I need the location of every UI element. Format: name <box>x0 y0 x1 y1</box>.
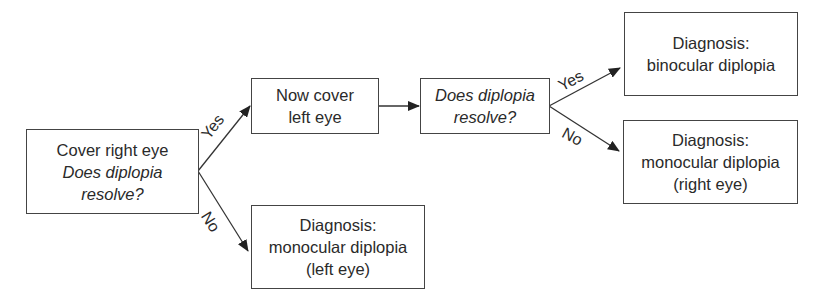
node-text: monocular diplopia <box>641 151 780 173</box>
node-text: resolve? <box>81 183 143 205</box>
node-text: Diagnosis: <box>299 214 376 236</box>
node-text: Diagnosis: <box>672 32 749 54</box>
node-diagnosis-binocular: Diagnosis: binocular diplopia <box>624 12 798 96</box>
node-text: Does diplopia <box>63 161 163 183</box>
node-diagnosis-monocular-left: Diagnosis: monocular diplopia (left eye) <box>251 205 425 289</box>
node-does-diplopia-resolve: Does diplopia resolve? <box>420 78 550 134</box>
node-diagnosis-monocular-right: Diagnosis: monocular diplopia (right eye… <box>623 120 798 204</box>
node-text: binocular diplopia <box>647 54 775 76</box>
node-text: (left eye) <box>306 258 370 280</box>
node-text: (right eye) <box>673 173 747 195</box>
node-text: Diagnosis: <box>672 129 749 151</box>
edge-start-to-monocular-left <box>198 171 248 251</box>
node-text: monocular diplopia <box>269 236 408 258</box>
node-text: Does diplopia <box>435 84 535 106</box>
node-text: Cover right eye <box>57 139 169 161</box>
edge-question2-to-monocular-right <box>549 106 619 151</box>
node-text: left eye <box>288 106 341 128</box>
node-text: Now cover <box>276 84 354 106</box>
node-now-cover-left-eye: Now cover left eye <box>251 78 379 134</box>
node-cover-right-eye: Cover right eye Does diplopia resolve? <box>26 129 199 214</box>
node-text: resolve? <box>454 106 516 128</box>
